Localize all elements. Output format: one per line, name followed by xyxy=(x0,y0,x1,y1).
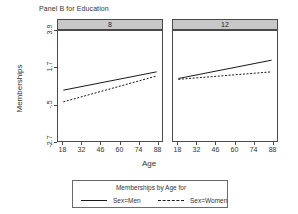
panel-strip-right-label: 12 xyxy=(221,21,229,28)
x-tick-label: 18 xyxy=(170,146,184,153)
x-tick-mark xyxy=(196,142,197,145)
y-tick-mark xyxy=(54,105,57,106)
y-axis-label: Memberships xyxy=(15,49,24,129)
x-tick-mark xyxy=(100,142,101,145)
x-tick-mark xyxy=(158,142,159,145)
legend: Memberships by Age for Sex=Men Sex=Women xyxy=(72,180,228,208)
x-tick-label: 74 xyxy=(132,146,146,153)
x-tick-label: 46 xyxy=(208,146,222,153)
page-title: Panel B for Education xyxy=(39,5,109,12)
x-tick-label: 74 xyxy=(247,146,261,153)
x-tick-mark xyxy=(177,142,178,145)
plot-area-panel-8 xyxy=(57,30,163,142)
series-line-sex-men xyxy=(63,72,156,90)
y-tick-mark xyxy=(54,30,57,31)
x-tick-label: 18 xyxy=(55,146,69,153)
plot-lines-panel-12 xyxy=(173,31,277,141)
panel-strip-right: 12 xyxy=(172,19,278,30)
x-tick-label: 60 xyxy=(228,146,242,153)
legend-key-dashed-icon xyxy=(158,200,184,201)
x-tick-label: 32 xyxy=(189,146,203,153)
x-tick-mark xyxy=(62,142,63,145)
y-tick-label: 1.7 xyxy=(46,56,53,78)
x-tick-mark xyxy=(139,142,140,145)
plot-area-panel-12 xyxy=(172,30,278,142)
x-tick-mark xyxy=(215,142,216,145)
y-tick-mark xyxy=(54,67,57,68)
x-tick-mark xyxy=(81,142,82,145)
y-tick-mark xyxy=(54,142,57,143)
panel-strip-left-label: 8 xyxy=(108,21,112,28)
legend-key-solid-icon xyxy=(81,200,107,201)
legend-title: Memberships by Age for xyxy=(73,184,229,191)
legend-label-women: Sex=Women xyxy=(190,195,227,207)
y-tick-label: -2.7 xyxy=(46,131,53,153)
figure-canvas: Panel B for Education Memberships Age 8 … xyxy=(0,0,298,214)
x-tick-mark xyxy=(273,142,274,145)
x-tick-label: 60 xyxy=(113,146,127,153)
x-tick-mark xyxy=(235,142,236,145)
panel-strip-left: 8 xyxy=(57,19,163,30)
x-tick-label: 88 xyxy=(151,146,165,153)
legend-entries: Sex=Men Sex=Women xyxy=(73,195,229,207)
x-tick-label: 32 xyxy=(74,146,88,153)
legend-label-men: Sex=Men xyxy=(113,195,141,207)
x-tick-mark xyxy=(254,142,255,145)
y-tick-label: 3.9 xyxy=(46,19,53,41)
plot-lines-panel-8 xyxy=(58,31,162,141)
x-axis-label: Age xyxy=(0,159,298,168)
series-line-sex-women xyxy=(63,76,156,102)
x-tick-label: 46 xyxy=(93,146,107,153)
x-tick-mark xyxy=(120,142,121,145)
y-tick-label: -.5 xyxy=(46,93,53,115)
x-tick-label: 88 xyxy=(266,146,280,153)
